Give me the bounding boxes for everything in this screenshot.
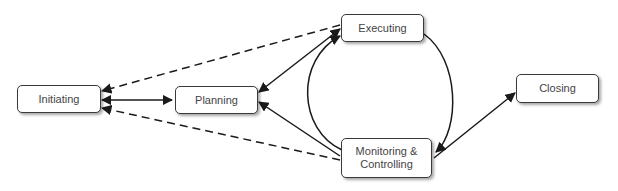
node-closing: Closing [516, 74, 599, 103]
edge-executing-monitoring [424, 34, 453, 152]
edge-monitoring-initiating [102, 108, 340, 160]
edge-monitoring-executing [308, 36, 342, 150]
node-monitoring-controlling: Monitoring & Controlling [341, 138, 432, 178]
node-executing: Executing [341, 14, 424, 42]
edge-monitoring-planning [259, 102, 340, 156]
edge-monitoring-closing [434, 93, 515, 158]
edge-planning-executing [259, 29, 340, 92]
node-planning: Planning [175, 86, 258, 114]
edge-executing-initiating [102, 25, 340, 91]
node-initiating: Initiating [17, 85, 101, 113]
